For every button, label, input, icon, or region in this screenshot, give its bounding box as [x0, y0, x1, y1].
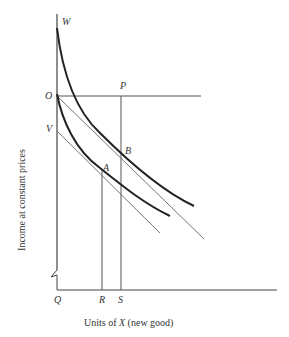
x-axis-label-suffix: (new good)	[125, 317, 173, 328]
x-axis-label-prefix: Units of	[84, 317, 119, 328]
axis-break-icon	[51, 270, 57, 290]
x-axis-label: Units of X (new good)	[84, 318, 173, 328]
label-Q: Q	[54, 295, 61, 305]
label-S: S	[118, 295, 123, 305]
label-R: R	[99, 295, 105, 305]
label-V: V	[46, 124, 52, 134]
label-B: B	[125, 146, 131, 156]
budget-line-O	[57, 96, 204, 239]
label-P: P	[120, 81, 126, 91]
indifference-curve-upper	[57, 28, 194, 206]
label-A: A	[103, 163, 109, 173]
indifference-diagram	[0, 0, 289, 337]
y-axis-label: Income at constant prices	[17, 149, 27, 251]
label-O: O	[45, 91, 52, 101]
label-W: W	[62, 17, 70, 27]
